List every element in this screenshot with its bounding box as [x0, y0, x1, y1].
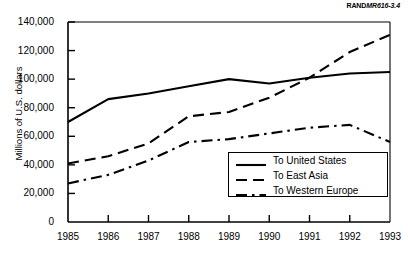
legend-swatch-dashdot — [236, 186, 266, 196]
chart-figure: RANDMR616-3.4 Millions of U.S. dollars 0… — [0, 0, 408, 258]
plot-area — [0, 0, 408, 258]
legend-label: To Western Europe — [273, 186, 358, 196]
legend-swatch-solid — [236, 156, 266, 166]
legend-item: To United States — [229, 153, 387, 168]
legend-swatch-dashed — [236, 171, 266, 181]
y-axis-ticks — [68, 22, 75, 193]
series-line-to-east-asia — [68, 35, 390, 164]
x-axis-ticks — [108, 215, 350, 222]
legend-item: To East Asia — [229, 168, 387, 183]
legend-label: To United States — [273, 156, 346, 166]
chart-legend: To United StatesTo East AsiaTo Western E… — [228, 152, 388, 197]
series-line-to-united-states — [68, 72, 390, 122]
legend-label: To East Asia — [273, 171, 328, 181]
legend-item: To Western Europe — [229, 183, 387, 198]
